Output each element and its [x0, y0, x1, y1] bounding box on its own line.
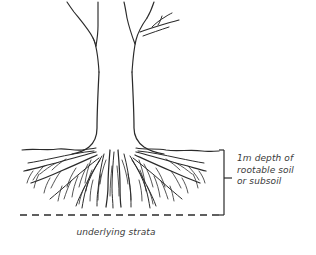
root-right-lateral-6	[132, 160, 150, 208]
right-small-twig	[158, 16, 162, 25]
root-crown-hair-8	[139, 160, 145, 183]
depth-callout-label: 1m depth of rootable soil or subsoil	[237, 153, 294, 188]
root-right-twig-14	[170, 186, 174, 201]
canopy-branches-group	[67, 2, 179, 72]
root-crown-hair-4	[117, 166, 119, 196]
left-main-branch	[67, 2, 99, 72]
depth-callout-line-2: rootable soil	[237, 165, 294, 177]
root-right-lateral-2	[135, 155, 200, 183]
root-central-1	[106, 150, 110, 207]
underlying-strata-caption: underlying strata	[0, 227, 232, 239]
root-crown-hair-1	[100, 160, 106, 184]
trunk-left-edge	[72, 72, 99, 154]
right-branch-upper	[147, 2, 154, 18]
depth-callout-line-1: 1m depth of	[237, 153, 294, 165]
root-right-twig-10	[166, 159, 180, 170]
depth-callout-line-3: or subsoil	[237, 176, 294, 188]
depth-bracket-group	[219, 150, 232, 215]
root-system-group	[24, 150, 206, 208]
left-fork-joint	[93, 38, 96, 46]
left-branch-fork	[96, 2, 98, 46]
root-central-3	[112, 152, 114, 208]
root-right-twig-8	[199, 171, 205, 183]
root-left-twig-8	[27, 171, 33, 183]
trunk-group	[72, 72, 164, 154]
root-left-twig-15	[90, 180, 93, 201]
root-right-twig-15	[139, 180, 142, 201]
right-lateral-lower-edge	[143, 27, 169, 36]
trunk-right-edge	[132, 72, 164, 154]
right-main-branch	[132, 18, 147, 72]
root-left-lateral-3	[50, 158, 99, 199]
root-left-twig-9	[44, 178, 50, 193]
root-right-twig-9	[182, 178, 188, 193]
soil-surface-group	[22, 148, 219, 151]
root-crown-hair-2	[122, 160, 128, 184]
soil-surface-line-left	[22, 148, 96, 150]
right-branch-left-prong	[124, 2, 135, 44]
root-left-twig-14	[58, 186, 62, 201]
root-left-twig-10	[52, 159, 66, 170]
diagram-root: 1m depth of rootable soil or subsoil und…	[0, 0, 316, 255]
tree-root-diagram-svg	[0, 0, 316, 255]
